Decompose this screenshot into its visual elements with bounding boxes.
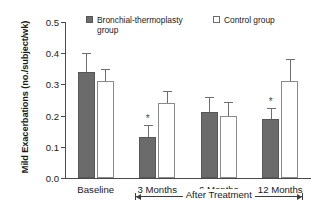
y-axis-line	[65, 22, 66, 178]
x-axis-label: 3 Months	[138, 184, 177, 195]
plot-area: 0.50.40.30.20.10.0 ** Baseline3 Months6 …	[65, 22, 311, 178]
bracket-left-arrow-icon	[136, 194, 141, 200]
y-tick-label: 0.3	[46, 79, 59, 90]
bar	[220, 116, 237, 178]
bar	[262, 119, 279, 178]
y-tick-label: 0.0	[46, 173, 59, 184]
bar	[281, 81, 298, 178]
error-bar-cap	[267, 108, 276, 109]
bar	[97, 81, 114, 178]
y-tick	[61, 22, 65, 23]
x-axis-label: 12 Months	[258, 184, 303, 195]
chart-figure: Mild Exacerbations (no./subject/wk) Bron…	[0, 0, 317, 218]
bracket-label: After Treatment	[183, 189, 255, 200]
error-bar-cap	[144, 125, 153, 126]
error-bar-cap	[224, 102, 233, 103]
x-axis-line	[65, 178, 311, 179]
error-bar	[167, 91, 168, 103]
error-bar-cap	[82, 53, 91, 54]
y-axis-title: Mild Exacerbations (no./subject/wk)	[20, 9, 30, 185]
error-bar	[105, 69, 106, 81]
y-tick	[61, 84, 65, 85]
significance-asterisk: *	[269, 98, 273, 106]
error-bar	[209, 97, 210, 113]
error-bar-cap	[163, 91, 172, 92]
bar	[139, 137, 156, 178]
error-bar	[290, 59, 291, 81]
y-tick	[61, 147, 65, 148]
bar	[158, 103, 175, 178]
error-bar	[86, 53, 87, 72]
y-tick-label: 0.1	[46, 141, 59, 152]
significance-asterisk: *	[146, 115, 150, 123]
error-bar-cap	[205, 97, 214, 98]
error-bar	[148, 125, 149, 137]
error-bar	[271, 108, 272, 119]
y-tick	[61, 53, 65, 54]
y-tick	[61, 178, 65, 179]
bar	[201, 112, 218, 178]
bracket-right-end	[302, 193, 303, 200]
y-tick-label: 0.2	[46, 110, 59, 121]
error-bar-cap	[286, 59, 295, 60]
y-tick-label: 0.5	[46, 17, 59, 28]
x-axis-label: Baseline	[77, 184, 114, 195]
error-bar	[228, 102, 229, 116]
bar	[78, 72, 95, 178]
error-bar-cap	[101, 69, 110, 70]
y-tick	[61, 116, 65, 117]
y-tick-label: 0.4	[46, 48, 59, 59]
bracket-right-arrow-icon	[297, 194, 302, 200]
